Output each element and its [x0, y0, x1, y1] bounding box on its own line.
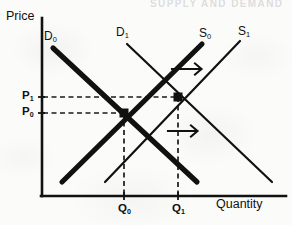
- curve-label-s1-sub: 1: [246, 30, 250, 39]
- figure-page: SUPPLY AND DEMAND: [0, 0, 292, 225]
- curve-label-d1: D1: [116, 26, 129, 38]
- quantity-tick-q0-sub: 0: [127, 208, 131, 216]
- curve-label-d1-text: D: [116, 25, 125, 39]
- tick-marks: [38, 97, 178, 200]
- equilibrium-point-e1: [174, 93, 183, 102]
- shift-arrow-lower: [168, 126, 198, 137]
- price-tick-label-p1: P1: [22, 90, 34, 102]
- price-tick-label-p0: P0: [22, 106, 34, 118]
- equilibrium-point-e0: [120, 109, 129, 118]
- price-tick-p1-sub: 1: [30, 95, 34, 103]
- curve-label-d0-text: D: [44, 29, 53, 43]
- curve-label-d1-sub: 1: [125, 31, 129, 40]
- price-tick-p1-text: P: [22, 89, 30, 101]
- x-axis-title: Quantity: [216, 198, 263, 211]
- quantity-tick-label-q1: Q1: [172, 203, 185, 215]
- quantity-tick-q1-sub: 1: [181, 208, 185, 216]
- y-axis-title: Price: [6, 10, 34, 23]
- curve-label-s0-text: S: [199, 26, 207, 40]
- quantity-tick-q0-text: Q: [118, 202, 127, 214]
- price-tick-p0-sub: 0: [30, 111, 34, 119]
- curve-s0: [62, 44, 202, 182]
- curve-d1: [127, 44, 272, 182]
- curve-label-d0-sub: 0: [53, 35, 57, 44]
- quantity-tick-q1-text: Q: [172, 202, 181, 214]
- curve-label-s1-text: S: [238, 24, 246, 38]
- curve-label-s0: S0: [199, 27, 211, 39]
- price-tick-p0-text: P: [22, 105, 30, 117]
- curve-label-s0-sub: 0: [207, 32, 211, 41]
- quantity-tick-label-q0: Q0: [118, 203, 131, 215]
- curve-label-s1: S1: [238, 25, 250, 37]
- curve-label-d0: D0: [44, 30, 57, 42]
